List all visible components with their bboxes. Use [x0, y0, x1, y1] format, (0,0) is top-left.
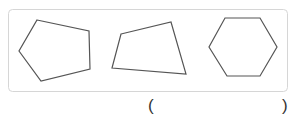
quadrilateral-shape [112, 22, 186, 74]
pentagon-shape [19, 20, 90, 81]
answer-close-paren: ) [282, 96, 288, 116]
answer-open-paren: ( [148, 96, 154, 116]
hexagon-shape [209, 18, 277, 76]
